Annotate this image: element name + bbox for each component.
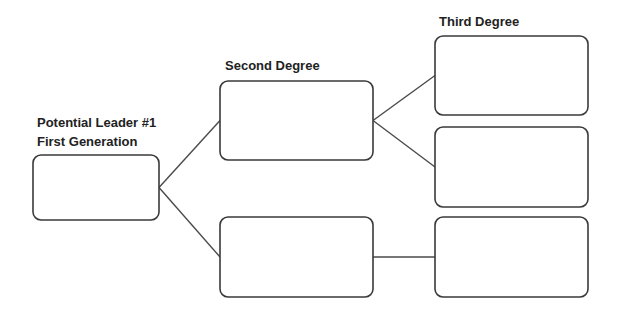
connector-second-1-to-third-1 [373,76,435,121]
node-box-first[interactable] [33,155,159,220]
connector-second-1-to-third-2 [373,121,435,168]
node-box-third-1[interactable] [435,36,588,115]
node-box-third-2[interactable] [435,127,588,207]
connector-first-to-second-1 [159,121,220,188]
node-box-second-2[interactable] [220,217,373,297]
node-box-second-1[interactable] [220,81,373,160]
node-box-third-3[interactable] [435,217,588,297]
org-tree-diagram [0,0,620,311]
connector-first-to-second-2 [159,188,220,258]
